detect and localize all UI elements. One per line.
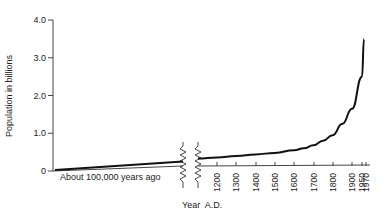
x-tick-label: 1970 bbox=[361, 173, 371, 192]
x-tick-label: 1600 bbox=[289, 173, 299, 192]
y-axis-label: Population in billions bbox=[4, 54, 14, 137]
x-ticks: 1200130014001500160017001800190019501970 bbox=[212, 162, 371, 192]
y-ticks: 01.02.03.04.0 bbox=[33, 15, 53, 176]
y-tick-label: 0 bbox=[41, 166, 46, 176]
x-tick-label: 1200 bbox=[212, 173, 222, 192]
population-chart: 01.02.03.04.0 Population in billions 120… bbox=[0, 0, 386, 224]
x-tick-label: 1800 bbox=[328, 173, 338, 192]
axis-break-zigzag-left bbox=[180, 142, 186, 188]
x-tick-label: 1400 bbox=[251, 173, 261, 192]
axis-break-zigzag-right bbox=[195, 142, 201, 188]
y-tick-label: 3.0 bbox=[33, 53, 46, 63]
prehistoric-annotation: About 100,000 years ago bbox=[60, 172, 161, 182]
x-tick-label: 1900 bbox=[347, 173, 357, 192]
population-line-ad bbox=[198, 39, 364, 159]
y-tick-label: 1.0 bbox=[33, 128, 46, 138]
x-axis-ad bbox=[198, 165, 370, 166]
y-tick-label: 4.0 bbox=[33, 15, 46, 25]
x-tick-label: 1500 bbox=[270, 173, 280, 192]
x-tick-label: 1300 bbox=[231, 173, 241, 192]
x-tick-label: 1700 bbox=[309, 173, 319, 192]
x-axis-label: Year A.D. bbox=[182, 200, 222, 210]
y-tick-label: 2.0 bbox=[33, 91, 46, 101]
